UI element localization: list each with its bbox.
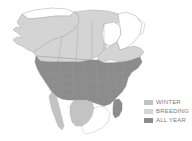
legend-item-all-year: ALL YEAR (144, 116, 192, 125)
legend-swatch-all-year (144, 118, 153, 123)
legend-swatch-winter (144, 100, 153, 105)
florida-peninsula-all-year-area (113, 99, 122, 118)
map-landmasses (13, 8, 145, 134)
legend-label-breeding: BREEDING (156, 108, 189, 115)
legend-swatch-breeding (144, 109, 153, 114)
legend-item-winter: WINTER (144, 98, 192, 107)
legend-label-all-year: ALL YEAR (156, 117, 186, 124)
legend-label-winter: WINTER (156, 99, 181, 106)
legend: WINTER BREEDING ALL YEAR (144, 98, 192, 125)
northern-quebec-labrador (117, 12, 142, 50)
legend-item-breeding: BREEDING (144, 107, 192, 116)
range-map-figure: WINTER BREEDING ALL YEAR (0, 0, 192, 141)
